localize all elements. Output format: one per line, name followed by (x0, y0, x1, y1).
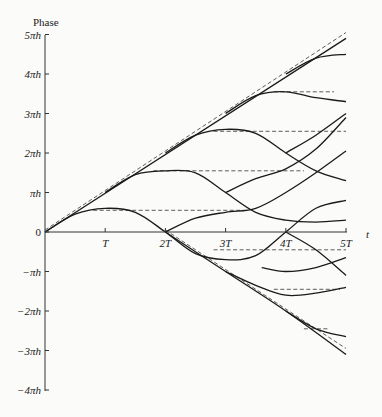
y-tick-label: −3πh (17, 345, 41, 357)
y-tick-label: πh (30, 187, 42, 199)
y-tick-label: −πh (23, 266, 42, 278)
y-tick-label: 2πh (24, 147, 41, 159)
y-tick-label: −4πh (17, 384, 41, 396)
curve-arc-j (286, 232, 346, 275)
solid-phase-curves (45, 38, 346, 354)
x-tick-label: 4T (280, 237, 293, 249)
curve-arc-g (226, 118, 346, 193)
dashed-reference-lines (45, 33, 346, 349)
y-axis-title: Phase (33, 16, 59, 28)
x-tick-label: 5T (340, 237, 353, 249)
x-tick-label: T (102, 237, 109, 249)
curve-arc-c (165, 129, 346, 180)
curve-arc-a (45, 200, 346, 259)
curve-arc-h (286, 114, 346, 154)
axes (45, 35, 347, 391)
curve-arc-d (226, 92, 346, 114)
phase-chart: 5πh4πh3πh2πhπh0−πh−2πh−3πh−4πhT2T3T4T5T … (0, 0, 382, 417)
x-axis-title: t (366, 228, 370, 240)
x-tick-label: 2T (160, 237, 173, 249)
y-tick-label: 3πh (23, 108, 41, 120)
y-tick-label: 4πh (24, 68, 41, 80)
curve-arc-f (165, 151, 346, 232)
curve-arc-b (105, 170, 346, 222)
axis-ticks: 5πh4πh3πh2πhπh0−πh−2πh−3πh−4πhT2T3T4T5T (17, 29, 353, 397)
x-tick-label: 3T (219, 237, 233, 249)
y-tick-label: 5πh (24, 29, 41, 41)
y-tick-label: −2πh (17, 305, 41, 317)
dashed-line-lower-diagonal (165, 230, 346, 349)
y-tick-label: 0 (36, 226, 42, 238)
